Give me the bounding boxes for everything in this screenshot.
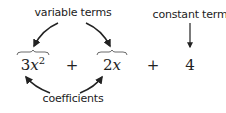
constant-term-label: constant term [153,8,226,21]
coefficients-label: coefficients [43,92,104,105]
arrow-to-term1 [34,23,58,46]
plus-sign-2: + [147,56,160,74]
coefficient-2: 2 [103,56,113,74]
variable-x: x [30,56,38,74]
variable-x: x [113,56,121,74]
constant-4: 4 [185,56,195,74]
term-2x: 2x [103,56,121,74]
exponent-2: 2 [39,55,45,66]
arrow-to-coefficient-3 [26,77,50,93]
arrow-to-coefficient-2 [80,77,102,93]
arrow-to-term2 [86,23,110,46]
overbrace-term2 [97,50,127,55]
plus-sign-1: + [66,56,79,74]
coefficient-3: 3 [21,56,31,74]
term-3x-squared: 3x2 [21,56,45,74]
variable-terms-label: variable terms [35,6,112,19]
